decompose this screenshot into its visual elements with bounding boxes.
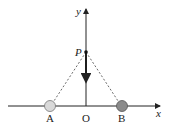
- point-p-dot: [84, 50, 88, 54]
- dashed-line-pa: [52, 52, 86, 104]
- y-axis-label: y: [75, 5, 81, 17]
- physics-diagram: y x P A O B: [0, 0, 169, 127]
- point-b-label: B: [118, 112, 125, 124]
- charge-b: [117, 101, 128, 112]
- point-p-label: P: [74, 46, 82, 58]
- x-axis-label: x: [155, 107, 161, 119]
- dashed-line-pb: [86, 52, 120, 104]
- point-a-label: A: [46, 112, 54, 124]
- charge-a: [45, 101, 56, 112]
- origin-label: O: [82, 112, 90, 124]
